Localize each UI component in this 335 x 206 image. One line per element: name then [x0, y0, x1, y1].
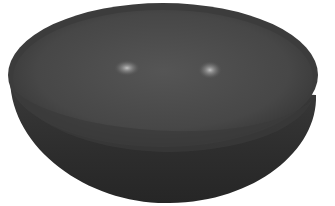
highlight-right	[198, 61, 222, 79]
highlight-left	[114, 60, 140, 76]
bowl-illustration	[0, 0, 335, 206]
bowl-photo	[0, 0, 335, 206]
